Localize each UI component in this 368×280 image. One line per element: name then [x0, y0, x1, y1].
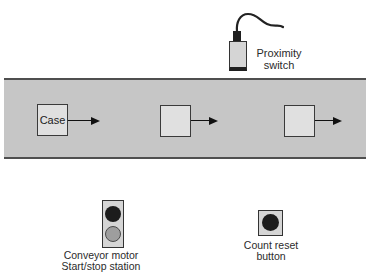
arrow-shaft [315, 120, 333, 122]
direction-arrow-1 [68, 116, 100, 125]
count-reset-label-line2: button [211, 251, 331, 262]
stop-button[interactable] [105, 206, 121, 222]
arrow-head-icon [91, 117, 100, 125]
proximity-switch-body-icon [229, 41, 247, 71]
count-reset-label: Count reset button [211, 240, 331, 262]
case-box-1: Case [37, 104, 68, 136]
arrow-head-icon [209, 117, 218, 125]
start-stop-station-label-line1: Conveyor motor [31, 250, 171, 261]
direction-arrow-3 [315, 116, 342, 125]
conveyor-diagram: Proximity switch Case Conveyor motor Sta… [0, 0, 368, 280]
count-reset-button[interactable] [262, 214, 279, 231]
proximity-switch-label-line1: Proximity [249, 48, 309, 60]
arrow-shaft [191, 120, 209, 122]
proximity-switch-label-line2: switch [249, 60, 309, 72]
arrow-shaft [68, 120, 91, 122]
start-stop-station-label-line2: Start/stop station [31, 261, 171, 272]
arrow-head-icon [333, 117, 342, 125]
case-box-3 [284, 105, 315, 137]
start-button[interactable] [105, 226, 121, 242]
start-stop-station-label: Conveyor motor Start/stop station [31, 250, 171, 271]
case-box-2 [160, 105, 191, 137]
proximity-switch-label: Proximity switch [249, 48, 309, 71]
direction-arrow-2 [191, 116, 218, 125]
